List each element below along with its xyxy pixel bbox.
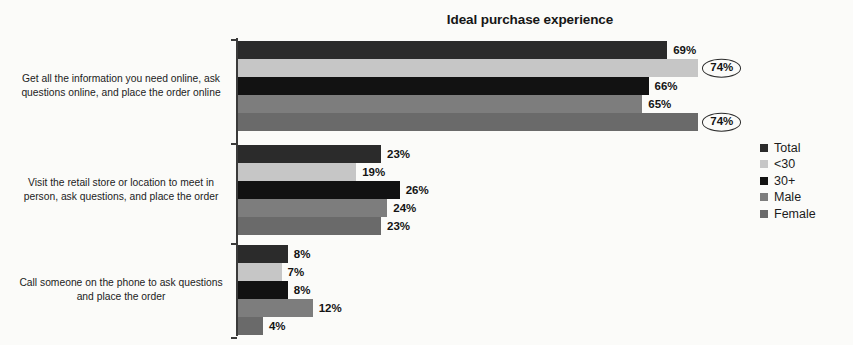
legend-item-male: Male [760, 190, 816, 206]
legend-item-female: Female [760, 206, 816, 222]
bar-value-label-highlighted: 74% [702, 113, 741, 132]
bar-row: 8% [238, 245, 756, 263]
bar [238, 77, 649, 95]
bar-value-label: 8% [294, 284, 311, 296]
bar [238, 113, 698, 131]
bar-value-label: 23% [387, 220, 410, 232]
bar [238, 163, 356, 181]
bar-group: 8%7%8%12%4% [238, 245, 756, 335]
bar [238, 95, 642, 113]
axis-tick [231, 143, 237, 145]
bar [238, 181, 400, 199]
bar-row: 26% [238, 181, 756, 199]
bar [238, 217, 381, 235]
axis-tick [231, 39, 237, 41]
bar-value-label: 23% [387, 148, 410, 160]
chart-legend: Total<3030+MaleFemale [760, 140, 816, 223]
axis-tick [231, 337, 237, 339]
bar-row: 8% [238, 281, 756, 299]
category-label: Visit the retail store or location to me… [10, 176, 232, 203]
bar-group: 69%74%66%65%74% [238, 41, 756, 131]
bar-value-label-highlighted: 74% [702, 59, 741, 78]
legend-label: Male [774, 190, 801, 204]
bar [238, 41, 667, 59]
legend-swatch-icon [760, 160, 768, 168]
bar [238, 263, 282, 281]
bar [238, 299, 313, 317]
legend-label: <30 [774, 157, 795, 171]
category-label-column: Get all the information you need online,… [8, 38, 232, 336]
bar-row: 12% [238, 299, 756, 317]
bar-row: 74% [238, 59, 756, 77]
legend-label: Total [774, 141, 800, 155]
bar-row: 23% [238, 145, 756, 163]
bar-value-label: 8% [294, 248, 311, 260]
bar-row: 4% [238, 317, 756, 335]
legend-swatch-icon [760, 144, 768, 152]
bar-row: 24% [238, 199, 756, 217]
legend-item-total: Total [760, 140, 816, 156]
legend-label: 30+ [774, 174, 795, 188]
bar-value-label: 66% [655, 80, 678, 92]
bar-row: 65% [238, 95, 756, 113]
legend-label: Female [774, 207, 816, 221]
bar-row: 66% [238, 77, 756, 95]
bar-row: 69% [238, 41, 756, 59]
legend-item-30: <30 [760, 157, 816, 173]
bar-value-label: 69% [673, 44, 696, 56]
legend-item-30: 30+ [760, 173, 816, 189]
bar [238, 245, 288, 263]
bar-group: 23%19%26%24%23% [238, 145, 756, 235]
bar-value-label: 65% [648, 98, 671, 110]
bar [238, 199, 387, 217]
bar-value-label: 12% [319, 302, 342, 314]
category-label: Call someone on the phone to ask questio… [10, 276, 232, 303]
bar [238, 317, 263, 335]
legend-swatch-icon [760, 177, 768, 185]
axis-tick [231, 243, 237, 245]
chart-container: Ideal purchase experience Get all the in… [0, 0, 853, 345]
bar-value-label: 24% [393, 202, 416, 214]
bar-row: 74% [238, 113, 756, 131]
bar-value-label: 4% [269, 320, 286, 332]
bar [238, 281, 288, 299]
bar-row: 23% [238, 217, 756, 235]
bar-value-label: 19% [362, 166, 385, 178]
legend-swatch-icon [760, 210, 768, 218]
bar [238, 59, 698, 77]
legend-swatch-icon [760, 193, 768, 201]
bar-row: 7% [238, 263, 756, 281]
bar [238, 145, 381, 163]
bar-value-label: 26% [406, 184, 429, 196]
bar-row: 19% [238, 163, 756, 181]
category-label: Get all the information you need online,… [10, 72, 232, 99]
bar-value-label: 7% [288, 266, 305, 278]
plot-area: 69%74%66%65%74%23%19%26%24%23%8%7%8%12%4… [236, 38, 756, 336]
chart-title: Ideal purchase experience [330, 12, 730, 27]
